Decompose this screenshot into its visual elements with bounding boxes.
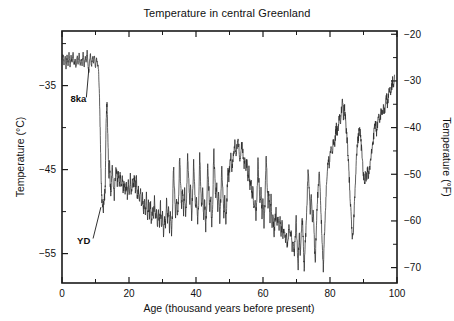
x-axis-title: Age (thousand years before present) [143, 302, 314, 314]
y-axis-left-title: Temperature (°C) [14, 117, 26, 198]
y-tick-label-left: −45 [39, 164, 56, 175]
annotation-label-8ka: 8ka [70, 93, 87, 104]
x-tick-label: 0 [59, 288, 65, 299]
y-axis-right-title: Temperature (°F) [441, 117, 453, 196]
annotation-leader-line [86, 69, 88, 97]
y-tick-label-right: −20 [404, 29, 421, 40]
x-tick-label: 40 [190, 288, 202, 299]
y-axis-right-ticks: −20−30−40−50−60−70 [391, 29, 421, 273]
y-tick-label-right: −70 [404, 262, 421, 273]
x-tick-label: 80 [324, 288, 336, 299]
y-tick-label-right: −50 [404, 169, 421, 180]
annotation-label-yd: YD [77, 235, 90, 246]
x-axis-ticks: 020406080100 [59, 277, 406, 299]
y-tick-label-right: −40 [404, 122, 421, 133]
plot-frame [62, 31, 397, 283]
y-tick-label-right: −30 [404, 75, 421, 86]
annotation-leader-line [93, 207, 101, 238]
x-tick-label: 60 [257, 288, 269, 299]
temperature-plot: 020406080100 −35−45−55 −20−30−40−50−60−7… [0, 0, 454, 321]
temperature-series-line [62, 50, 394, 272]
annotation-group: 8kaYD [70, 69, 100, 245]
y-tick-label-left: −35 [39, 80, 56, 91]
x-axis-top-ticks [62, 31, 397, 37]
x-tick-label: 100 [389, 288, 406, 299]
x-tick-label: 20 [123, 288, 135, 299]
y-tick-label-right: −60 [404, 215, 421, 226]
chart-figure: Temperature in central Greenland 0204060… [0, 0, 454, 321]
y-axis-left-ticks: −35−45−55 [39, 44, 68, 260]
y-tick-label-left: −55 [39, 248, 56, 259]
